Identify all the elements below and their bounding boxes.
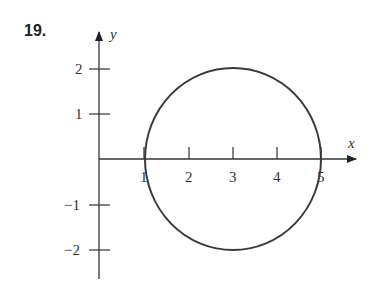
y-tick-label-2: 2	[75, 61, 83, 77]
x-axis-label: x	[347, 135, 355, 151]
circle-graph: x y 1 2 3 4 5 2 1 −1 −2	[0, 0, 382, 292]
x-tick-label-2: 2	[185, 169, 193, 185]
y-tick-label-neg1: −1	[64, 197, 80, 213]
y-tick-label-neg2: −2	[64, 242, 80, 258]
y-tick-label-1: 1	[75, 106, 83, 122]
x-tick-label-3: 3	[229, 169, 237, 185]
y-axis-label: y	[108, 26, 117, 42]
x-ticks	[144, 147, 321, 159]
x-tick-label-4: 4	[273, 169, 281, 185]
